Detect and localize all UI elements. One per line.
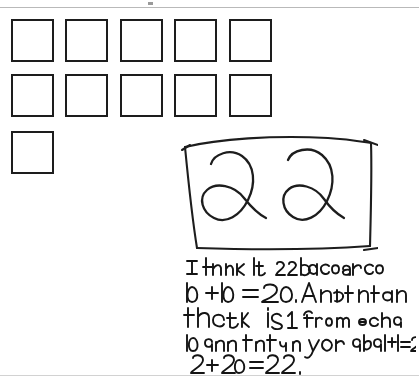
- handwriting-line-4: [187, 335, 416, 358]
- answer-box: [178, 132, 378, 257]
- handwritten-explanation: [182, 256, 416, 380]
- empty-square: [11, 131, 54, 174]
- handwriting-line-1: [187, 258, 383, 275]
- empty-square: [11, 19, 54, 62]
- scan-page: 22 I think its 22 be cause 10+10 = 20. A…: [0, 0, 419, 384]
- handwriting-line-2: [187, 283, 406, 302]
- answer-box-top-edge: [185, 137, 371, 147]
- handwriting-line-5: [191, 355, 300, 374]
- empty-square: [65, 74, 108, 117]
- answer-digit-2-first: [202, 152, 266, 220]
- empty-square: [174, 19, 217, 62]
- handwriting-drawing: [182, 256, 416, 380]
- empty-square: [229, 19, 272, 62]
- answer-digit-2-second: [283, 150, 344, 220]
- empty-square: [229, 74, 272, 117]
- answer-box-right-edge: [370, 143, 371, 246]
- empty-square: [65, 19, 108, 62]
- empty-square: [11, 74, 54, 117]
- answer-box-drawing: [178, 132, 378, 257]
- empty-square: [120, 74, 163, 117]
- handwriting-line-3: [184, 308, 401, 329]
- empty-square: [120, 19, 163, 62]
- answer-box-left-edge: [185, 147, 197, 248]
- answer-box-bottom-edge: [197, 246, 370, 249]
- answer-box-corner-overshoot-br: [364, 248, 378, 250]
- empty-square: [174, 74, 217, 117]
